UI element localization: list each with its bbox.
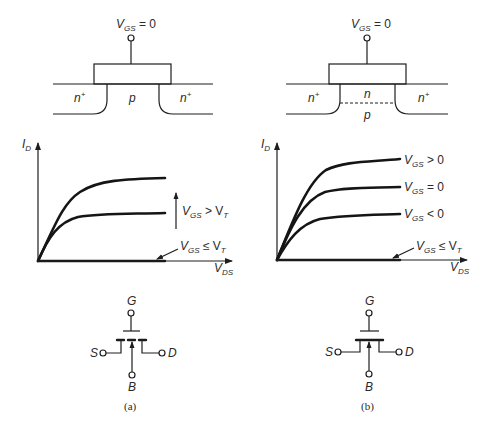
gate-terminal-a [128,35,134,41]
cross-section-a: VGS = 0 n+ p n+ [53,17,213,114]
source-region-label-b: n+ [308,90,320,105]
source-terminal-b [335,349,341,355]
chart-a: ID VDS VGS > VT VGS ≤ VT [22,137,234,277]
channel-label-b: n [364,87,371,101]
annotation-cutoff-b: VGS ≤ VT [416,239,463,255]
panel-caption-b: (b) [361,400,374,413]
gate-voltage-label-a: VGS = 0 [116,17,156,33]
label-vgs-positive-b: VGS > 0 [404,153,444,169]
body-terminal-b [366,371,372,377]
body-terminal-label-a: B [128,380,136,394]
symbol-gate-terminal-b [366,310,372,316]
cutoff-pointer-b [393,248,414,258]
label-vgs-negative-b: VGS < 0 [404,207,444,223]
chart-b: ID VDS VGS > 0 VGS = 0 VGS < 0 VGS ≤ VT [261,137,470,276]
substrate-label-b: p [363,108,371,122]
annotation-vgs-gt-vt-a: VGS > VT [182,204,229,220]
panel-caption-a: (a) [124,400,137,413]
substrate-label-a: p [128,91,136,105]
y-axis-label-a: ID [22,137,31,153]
y-axis-label-b: ID [261,137,270,153]
drain-region-label-a: n+ [180,90,192,105]
curve-vgs-high-a [38,178,165,261]
curve-vgs-zero-b [277,187,400,260]
gate-terminal-label-b: G [365,294,374,308]
mosfet-symbol-a: G S D B (a) [90,294,177,413]
gate-electrode-a [94,64,171,84]
source-terminal-label-b: S [325,345,333,359]
x-axis-label-b: VDS [450,260,470,276]
label-vgs-zero-b: VGS = 0 [404,180,444,196]
gate-electrode-b [329,64,406,84]
body-terminal-a [129,372,135,378]
drain-terminal-a [159,350,165,356]
annotation-cutoff-a: VGS ≤ VT [180,239,227,255]
drain-terminal-b [396,349,402,355]
source-region-label-a: n+ [74,90,86,105]
mosfet-symbol-b: G S D B (b) [325,294,414,413]
symbol-gate-terminal-a [128,310,134,316]
drain-terminal-label-b: D [405,345,414,359]
x-axis-label-a: VDS [214,261,234,277]
body-terminal-label-b: B [365,380,373,394]
cross-section-b: VGS = 0 n+ n p n+ [286,17,448,122]
source-terminal-label-a: S [90,346,98,360]
gate-terminal-label-a: G [127,294,136,308]
mosfet-comparison-figure: VGS = 0 n+ p n+ VGS = 0 n+ n p n+ ID VDS [0,0,488,423]
curve-vgs-positive-b [277,159,400,260]
gate-terminal-b [364,35,370,41]
drain-terminal-label-a: D [168,346,177,360]
source-terminal-a [100,350,106,356]
gate-voltage-label-b: VGS = 0 [351,17,391,33]
cutoff-pointer-a [157,249,178,259]
drain-region-label-b: n+ [418,90,430,105]
